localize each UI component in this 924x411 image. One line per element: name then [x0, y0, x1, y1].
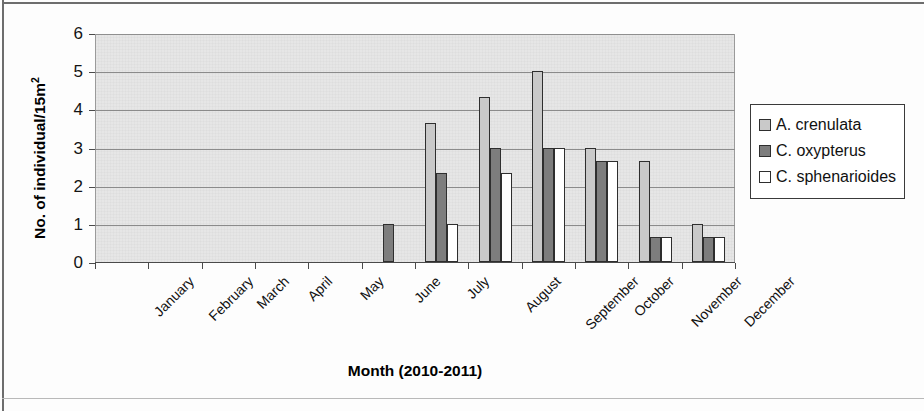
legend-swatch-icon-2	[759, 171, 771, 183]
x-tick-mark-10	[628, 263, 629, 269]
bar-september-series2	[554, 148, 565, 263]
legend-item-1: C. oxypterus	[759, 138, 896, 164]
x-tick-label-july: July	[463, 273, 492, 302]
x-tick-label-august: August	[522, 273, 564, 315]
x-tick-mark-4	[308, 263, 309, 269]
bar-december-series0	[692, 224, 703, 262]
x-tick-mark-7	[468, 263, 469, 269]
bar-july-series1	[436, 173, 447, 262]
x-tick-mark-9	[575, 263, 576, 269]
y-tick-label-3: 3	[74, 139, 83, 159]
legend: A. crenulataC. oxypterusC. sphenarioides	[750, 104, 905, 199]
x-tick-label-december: December	[741, 273, 798, 330]
bar-october-series0	[585, 148, 596, 263]
x-tick-mark-11	[682, 263, 683, 269]
bar-december-series1	[703, 237, 714, 262]
x-tick-mark-8	[522, 263, 523, 269]
bar-september-series1	[543, 148, 554, 263]
x-tick-label-april: April	[304, 273, 335, 304]
legend-swatch-icon-1	[759, 145, 771, 157]
x-tick-mark-0	[95, 263, 96, 269]
gridline-y-3	[95, 149, 735, 150]
x-axis: JanuaryFebruaryMarchAprilMayJuneJulyAugu…	[95, 263, 735, 363]
bar-june-series1	[383, 224, 394, 262]
y-tick-label-6: 6	[74, 24, 83, 44]
legend-label-1: C. oxypterus	[776, 142, 866, 160]
bar-november-series0	[639, 161, 650, 262]
x-axis-title: Month (2010-2011)	[95, 362, 735, 380]
page-border-top	[2, 2, 924, 4]
x-tick-mark-1	[148, 263, 149, 269]
y-axis: 0123456	[0, 34, 95, 263]
bar-november-series2	[661, 237, 672, 262]
legend-item-0: A. crenulata	[759, 112, 896, 138]
bar-november-series1	[650, 237, 661, 262]
bar-august-series0	[479, 97, 490, 262]
gridline-y-5	[95, 72, 735, 73]
bar-july-series0	[425, 123, 436, 262]
x-tick-label-november: November	[688, 273, 745, 330]
gridline-y-4	[95, 110, 735, 111]
legend-item-2: C. sphenarioides	[759, 164, 896, 190]
x-tick-mark-6	[415, 263, 416, 269]
x-tick-label-june: June	[411, 273, 444, 306]
x-tick-mark-5	[362, 263, 363, 269]
x-tick-label-march: March	[254, 273, 293, 312]
bar-december-series2	[714, 237, 725, 262]
page-border-bottom	[2, 398, 924, 399]
bar-august-series2	[501, 173, 512, 262]
x-tick-mark-12	[735, 263, 736, 269]
y-tick-label-1: 1	[74, 215, 83, 235]
x-tick-mark-3	[255, 263, 256, 269]
legend-label-0: A. crenulata	[776, 116, 861, 134]
legend-label-2: C. sphenarioides	[776, 168, 896, 186]
x-tick-mark-2	[202, 263, 203, 269]
x-tick-label-may: May	[357, 273, 387, 303]
legend-swatch-icon-0	[759, 119, 771, 131]
y-tick-label-5: 5	[74, 62, 83, 82]
x-tick-label-january: January	[150, 273, 197, 320]
bar-october-series1	[596, 161, 607, 262]
y-tick-label-4: 4	[74, 100, 83, 120]
y-tick-label-2: 2	[74, 177, 83, 197]
x-tick-label-september: September	[582, 273, 642, 333]
x-tick-label-february: February	[205, 273, 256, 324]
bar-august-series1	[490, 148, 501, 263]
bar-october-series2	[607, 161, 618, 262]
chart-figure: No. of individual/15m2 0123456 JanuaryFe…	[0, 0, 924, 411]
bar-july-series2	[447, 224, 458, 262]
plot-area	[95, 34, 735, 263]
plot-border-top	[95, 34, 735, 35]
bar-september-series0	[532, 71, 543, 262]
y-tick-label-0: 0	[74, 253, 83, 273]
